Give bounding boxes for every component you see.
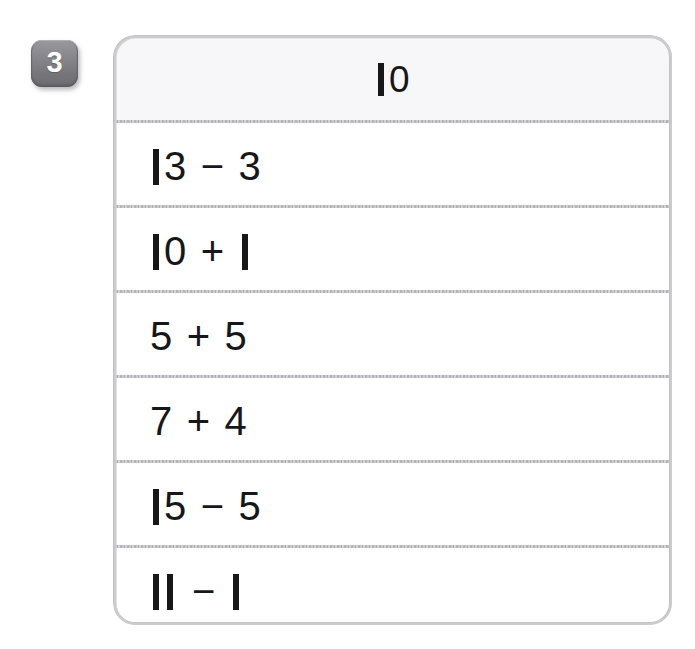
expression-text: 5−5 <box>113 486 261 526</box>
target-value-label: 0 <box>375 61 410 98</box>
expression-text: 3−3 <box>113 146 261 186</box>
minus-operator-icon: − <box>198 486 228 526</box>
plus-operator-icon: + <box>184 316 214 356</box>
question-number-label: 3 <box>46 48 62 77</box>
minus-operator-icon: − <box>189 571 219 611</box>
minus-operator-icon: − <box>198 146 228 186</box>
digit-one-stroke-icon <box>167 574 173 610</box>
card-header-row: 0 <box>113 35 672 123</box>
question-number-badge: 3 <box>31 40 78 87</box>
table-row[interactable]: 3−3 <box>113 123 672 208</box>
digit-one-stroke-icon <box>233 574 239 610</box>
table-row[interactable]: 0+ <box>113 208 672 293</box>
table-row[interactable]: 7+4 <box>113 378 672 463</box>
expression-text: − <box>113 571 244 611</box>
digit-one-stroke-icon <box>153 149 159 185</box>
digit-one-stroke-icon <box>153 574 159 610</box>
plus-operator-icon: + <box>184 401 214 441</box>
table-row[interactable]: 5+5 <box>113 293 672 378</box>
digit-one-stroke-icon <box>153 234 159 270</box>
expression-text: 7+4 <box>113 401 247 441</box>
table-row[interactable]: − <box>113 548 672 625</box>
expression-text: 5+5 <box>113 316 247 356</box>
digit-one-stroke-icon <box>242 234 248 270</box>
table-row[interactable]: 5−5 <box>113 463 672 548</box>
expression-text: 0+ <box>113 231 253 271</box>
plus-operator-icon: + <box>198 231 228 271</box>
digit-one-stroke-icon <box>153 489 159 525</box>
digit-one-stroke-icon <box>378 63 384 96</box>
expression-card: 0 3−3 0+ 5+5 7+4 5−5 − <box>113 35 672 625</box>
